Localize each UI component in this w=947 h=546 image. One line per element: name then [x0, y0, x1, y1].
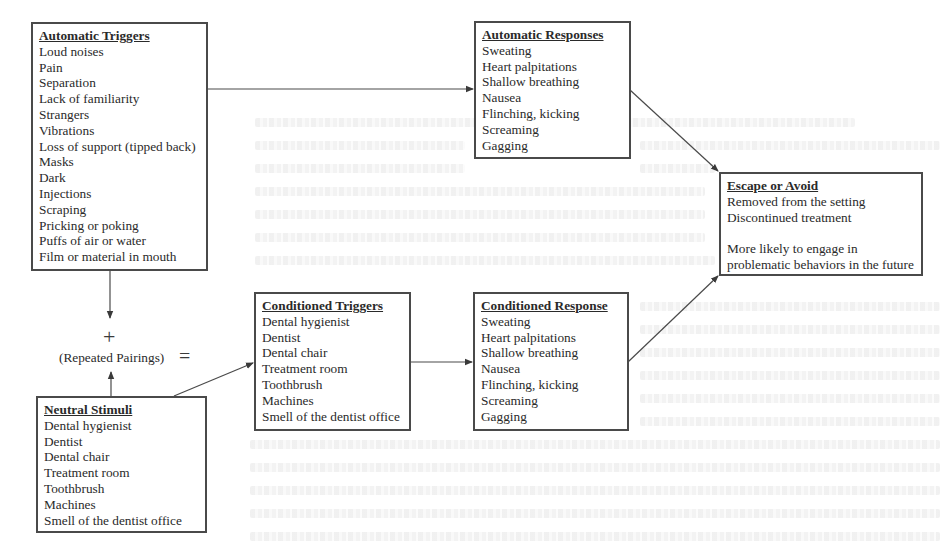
note-line: More likely to engage in	[727, 241, 915, 257]
box-title: Automatic Triggers	[39, 28, 200, 44]
list-item: Gagging	[482, 138, 623, 154]
list-item: Machines	[44, 497, 199, 513]
list-item: Dark	[39, 170, 200, 186]
box-title: Conditioned Response	[481, 298, 621, 314]
automatic-responses-box: Automatic Responses Sweating Heart palpi…	[474, 21, 631, 159]
box-title: Automatic Responses	[482, 27, 623, 43]
list-item: Sweating	[482, 43, 623, 59]
list-item: Vibrations	[39, 123, 200, 139]
arrow-neutral-to-conditioned-triggers	[174, 363, 253, 396]
neutral-stimuli-box: Neutral Stimuli Dental hygienist Dentist…	[36, 396, 207, 533]
list-item: Flinching, kicking	[481, 377, 621, 393]
list-item: Dental hygienist	[262, 314, 403, 330]
list-item: Gagging	[481, 409, 621, 425]
escape-or-avoid-box: Escape or Avoid Removed from the setting…	[719, 172, 923, 276]
plus-symbol: +	[103, 326, 115, 348]
box-title: Escape or Avoid	[727, 178, 915, 194]
list-item: Screaming	[481, 393, 621, 409]
list-item: Dentist	[262, 330, 403, 346]
list-item: Shallow breathing	[482, 74, 623, 90]
conditioned-response-box: Conditioned Response Sweating Heart palp…	[473, 292, 629, 431]
list-item: Separation	[39, 75, 200, 91]
automatic-triggers-box: Automatic Triggers Loud noises Pain Sepa…	[31, 22, 208, 271]
list-item: Dentist	[44, 434, 199, 450]
list-item: Toothbrush	[44, 481, 199, 497]
list-item: Loss of support (tipped back)	[39, 139, 200, 155]
list-item: Nausea	[481, 361, 621, 377]
list-item: Machines	[262, 393, 403, 409]
list-item: Loud noises	[39, 44, 200, 60]
list-item: Puffs of air or water	[39, 233, 200, 249]
list-item: Scraping	[39, 202, 200, 218]
list-item: Lack of familiarity	[39, 91, 200, 107]
list-item: Dental chair	[262, 345, 403, 361]
list-item: Heart palpitations	[481, 330, 621, 346]
list-item: Smell of the dentist office	[44, 513, 199, 529]
list-item: Removed from the setting	[727, 194, 915, 210]
list-item: Dental hygienist	[44, 418, 199, 434]
spacer	[727, 225, 915, 241]
list-item: Treatment room	[262, 361, 403, 377]
box-title: Neutral Stimuli	[44, 402, 199, 418]
box-title: Conditioned Triggers	[262, 298, 403, 314]
list-item: Discontinued treatment	[727, 210, 915, 226]
list-item: Shallow breathing	[481, 345, 621, 361]
arrow-conditioned-response-to-escape	[628, 276, 718, 362]
list-item: Sweating	[481, 314, 621, 330]
list-item: Pain	[39, 60, 200, 76]
list-item: Flinching, kicking	[482, 106, 623, 122]
list-item: Film or material in mouth	[39, 249, 200, 265]
list-item: Nausea	[482, 90, 623, 106]
arrow-responses-to-escape	[630, 90, 718, 171]
note-line: problematic behaviors in the future	[727, 257, 915, 273]
repeated-pairings-label: (Repeated Pairings)	[59, 350, 164, 366]
list-item: Heart palpitations	[482, 59, 623, 75]
list-item: Toothbrush	[262, 377, 403, 393]
list-item: Dental chair	[44, 449, 199, 465]
list-item: Smell of the dentist office	[262, 409, 403, 425]
list-item: Treatment room	[44, 465, 199, 481]
list-item: Masks	[39, 154, 200, 170]
list-item: Strangers	[39, 107, 200, 123]
list-item: Screaming	[482, 122, 623, 138]
conditioned-triggers-box: Conditioned Triggers Dental hygienist De…	[254, 292, 411, 431]
equals-symbol: =	[179, 346, 190, 366]
list-item: Pricking or poking	[39, 218, 200, 234]
list-item: Injections	[39, 186, 200, 202]
